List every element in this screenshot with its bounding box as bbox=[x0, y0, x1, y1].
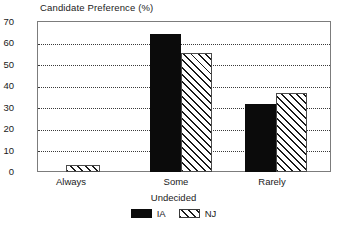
legend-swatch-nj-icon bbox=[179, 209, 200, 218]
chart-legend: IA NJ bbox=[0, 208, 347, 219]
bar-some-nj bbox=[181, 53, 212, 172]
legend-swatch-ia-icon bbox=[131, 209, 152, 218]
legend-entry-nj: NJ bbox=[179, 208, 217, 219]
bar-always-nj bbox=[66, 165, 100, 173]
ytick-label-10: 10 bbox=[0, 146, 14, 156]
xaxis-title: Undecided bbox=[0, 192, 347, 203]
xtick-label-some: Some bbox=[144, 176, 208, 187]
bar-chart: Candidate Preference (%) 70 60 50 40 30 … bbox=[0, 0, 347, 225]
bar-rarely-ia bbox=[245, 104, 276, 172]
legend-label-nj: NJ bbox=[205, 208, 217, 219]
bar-rarely-nj bbox=[276, 93, 307, 172]
ytick-label-70: 70 bbox=[0, 17, 14, 27]
ytick-label-20: 20 bbox=[0, 124, 14, 134]
xtick-label-always: Always bbox=[39, 176, 103, 187]
ytick-label-60: 60 bbox=[0, 38, 14, 48]
bars-layer bbox=[37, 21, 331, 172]
legend-entry-ia: IA bbox=[131, 208, 166, 219]
ytick-label-0: 0 bbox=[0, 167, 14, 177]
ytick-label-40: 40 bbox=[0, 81, 14, 91]
ytick-label-30: 30 bbox=[0, 103, 14, 113]
legend-label-ia: IA bbox=[157, 208, 166, 219]
bar-some-ia bbox=[150, 34, 181, 172]
xtick-label-rarely: Rarely bbox=[240, 176, 304, 187]
ytick-label-50: 50 bbox=[0, 60, 14, 70]
chart-title: Candidate Preference (%) bbox=[40, 2, 153, 13]
